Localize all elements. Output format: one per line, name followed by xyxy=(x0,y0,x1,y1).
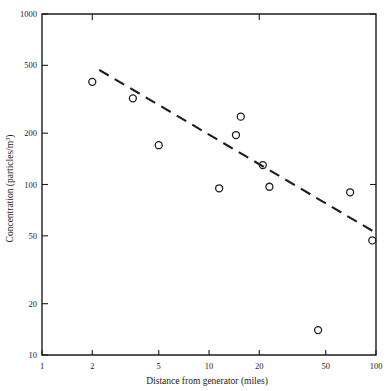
scatter-plot-figure: 1251020501001020501002005001000Distance … xyxy=(0,0,388,391)
y-tick-label: 10 xyxy=(29,350,38,360)
data-point-marker xyxy=(237,113,244,120)
data-point-marker xyxy=(315,327,322,334)
data-point-marker xyxy=(266,183,273,190)
plot-frame xyxy=(42,14,376,355)
x-tick-label: 50 xyxy=(321,361,330,371)
y-tick-label: 1000 xyxy=(20,9,37,19)
x-axis-title: Distance from generator (miles) xyxy=(146,376,268,387)
y-tick-label: 200 xyxy=(24,128,37,138)
data-point-marker xyxy=(232,132,239,139)
data-point-marker xyxy=(129,95,136,102)
data-point-marker xyxy=(89,78,96,85)
y-tick-label: 20 xyxy=(29,299,38,309)
trend-line xyxy=(99,70,376,233)
y-axis-title: Concentration (particles/m3) xyxy=(4,135,17,243)
x-tick-label: 10 xyxy=(205,361,214,371)
svg-text:Concentration (particles/m3): Concentration (particles/m3) xyxy=(4,135,17,243)
y-tick-label: 50 xyxy=(29,231,38,241)
y-tick-label: 500 xyxy=(24,60,37,70)
x-tick-label: 20 xyxy=(255,361,264,371)
x-tick-label: 1 xyxy=(40,361,44,371)
data-point-marker xyxy=(216,185,223,192)
y-tick-label: 100 xyxy=(24,180,37,190)
x-tick-label: 5 xyxy=(157,361,161,371)
data-point-marker xyxy=(347,189,354,196)
x-tick-label: 2 xyxy=(90,361,94,371)
data-point-marker xyxy=(155,142,162,149)
data-point-marker xyxy=(369,237,376,244)
plot-canvas: 1251020501001020501002005001000Distance … xyxy=(0,0,388,391)
x-tick-label: 100 xyxy=(370,361,383,371)
